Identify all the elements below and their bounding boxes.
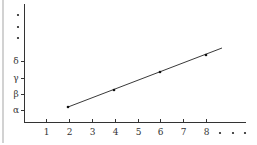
data-line [68,48,222,107]
x-tick-label: 3 [90,127,96,137]
data-point [205,54,208,57]
x-tick-label: 6 [158,127,164,137]
data-point [159,71,162,74]
x-continuation-dots [219,132,246,134]
y-tick-label: α [13,105,19,115]
x-ticks: 12345678 [44,119,210,137]
y-tick-label: δ [13,56,18,66]
x-tick-label: 5 [136,127,142,137]
x-tick-label: 8 [204,127,210,137]
x-tick-label: 1 [44,127,50,137]
x-tick-label: 4 [113,127,119,137]
data-point [67,106,70,109]
y-ticks: αβγδ [13,56,25,115]
y-continuation-dots [17,14,19,39]
data-point [113,89,116,92]
x-tick-label: 2 [67,127,73,137]
y-tick-label: β [13,89,18,99]
x-tick-label: 7 [181,127,187,137]
y-tick-label: γ [13,73,18,83]
chart-canvas: αβγδ 12345678 [0,0,257,145]
